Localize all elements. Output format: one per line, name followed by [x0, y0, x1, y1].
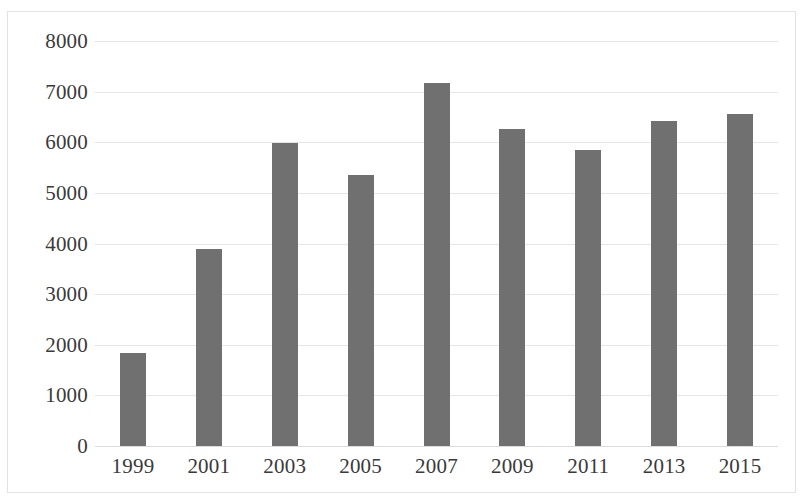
bar — [651, 121, 677, 446]
x-axis-tick-label: 2007 — [399, 455, 475, 477]
bar-chart: 8000 7000 6000 5000 4000 3000 2000 1000 … — [0, 0, 805, 501]
bar — [424, 83, 450, 446]
y-axis-tick-label: 3000 — [2, 284, 88, 305]
bar — [348, 175, 374, 446]
y-axis-tick-label: 7000 — [2, 82, 88, 103]
x-axis-tick-labels: 1999 2001 2003 2005 2007 2009 2011 2013 … — [95, 455, 778, 489]
y-axis-tick-label: 2000 — [2, 335, 88, 356]
bar — [272, 143, 298, 446]
bar — [575, 150, 601, 446]
x-axis-tick-label: 1999 — [95, 455, 171, 477]
bar — [196, 249, 222, 446]
y-axis-tick-label: 5000 — [2, 183, 88, 204]
y-axis-tick-label: 8000 — [2, 31, 88, 52]
x-axis-tick-label: 2011 — [550, 455, 626, 477]
x-axis-tick-label: 2005 — [323, 455, 399, 477]
y-axis-tick-label: 0 — [2, 436, 88, 457]
bar — [499, 129, 525, 446]
bars-layer — [95, 41, 778, 446]
x-axis-tick-label: 2013 — [626, 455, 702, 477]
x-axis-tick-label: 2003 — [247, 455, 323, 477]
x-axis-tick-label: 2001 — [171, 455, 247, 477]
y-axis-tick-label: 6000 — [2, 132, 88, 153]
bar — [727, 114, 753, 446]
y-axis-tick-label: 4000 — [2, 234, 88, 255]
plot-area — [95, 41, 778, 446]
gridline — [95, 446, 778, 447]
x-axis-tick-label: 2015 — [702, 455, 778, 477]
bar — [120, 353, 146, 446]
y-axis-tick-label: 1000 — [2, 385, 88, 406]
y-axis-tick-labels: 8000 7000 6000 5000 4000 3000 2000 1000 … — [0, 41, 88, 446]
x-axis-tick-label: 2009 — [474, 455, 550, 477]
